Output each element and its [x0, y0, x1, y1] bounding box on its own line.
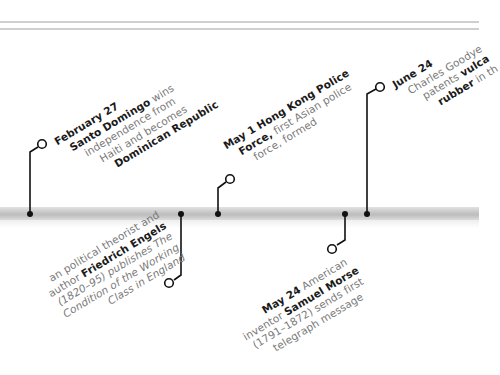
may24-dot-icon: [342, 211, 348, 217]
feb27-marker-icon: [38, 140, 47, 149]
jun24-dot-icon: [364, 211, 370, 217]
may1-marker-icon: [226, 175, 235, 184]
engels-dot-icon: [178, 211, 184, 217]
may1-dot-icon: [215, 211, 221, 217]
feb27-dot-icon: [27, 211, 33, 217]
jun24-marker-icon: [376, 83, 385, 92]
may24-connector: [337, 214, 345, 245]
engels-marker-icon: [165, 279, 174, 288]
may24-marker-icon: [328, 245, 337, 254]
jun24-connector: [367, 89, 376, 214]
feb27-connector: [30, 147, 38, 214]
may1-connector: [218, 182, 226, 214]
